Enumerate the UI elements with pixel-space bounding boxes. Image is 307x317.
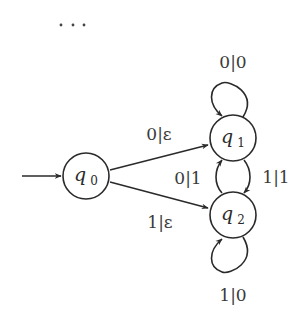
svg-text:0: 0 (90, 174, 98, 188)
edge-q1-q2 (244, 160, 250, 193)
loop-q1 (212, 83, 248, 117)
label-q1-loop: 0|0 (219, 52, 246, 72)
state-q2: q 2 (210, 192, 256, 238)
label-q2-loop: 1|0 (219, 285, 246, 305)
state-q1: q 1 (210, 115, 256, 161)
ellipsis-icon (60, 24, 86, 27)
label-q0-q1: 0|ε (146, 124, 172, 144)
loop-q2 (212, 237, 248, 272)
edge-q2-q1 (216, 160, 222, 193)
label-q2-q1: 0|1 (174, 168, 201, 188)
svg-text:q: q (221, 125, 233, 147)
fst-diagram: q 0 q 1 q 2 0|ε 1|ε 0|0 1|1 0|1 1|0 (0, 0, 307, 317)
svg-text:q: q (74, 163, 86, 185)
svg-text:1: 1 (237, 136, 245, 150)
label-q1-q2: 1|1 (262, 167, 289, 187)
edge-q0-q1 (110, 145, 208, 170)
label-q0-q2: 1|ε (147, 212, 173, 232)
svg-text:2: 2 (237, 213, 245, 227)
svg-text:q: q (221, 202, 233, 224)
state-q0: q 0 (63, 153, 109, 199)
